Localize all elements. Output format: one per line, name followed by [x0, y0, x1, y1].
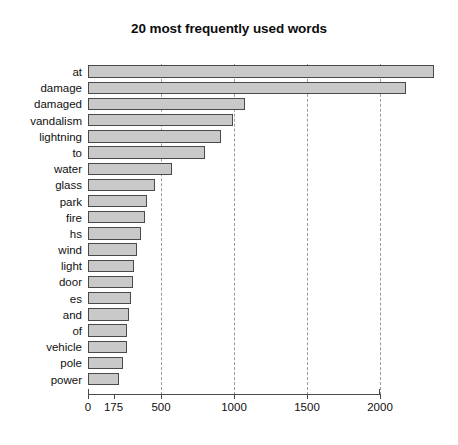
y-label-lightning: lightning [0, 129, 82, 145]
bar-row [88, 372, 453, 388]
y-label-power: power [0, 372, 82, 388]
chart-title: 20 most frequently used words [0, 21, 458, 36]
x-tick-500 [161, 394, 162, 399]
bar-glass [88, 179, 155, 191]
bar-chart: 20 most frequently used words atdamageda… [0, 0, 458, 445]
bar-lightning [88, 130, 221, 142]
bar-to [88, 146, 205, 158]
x-tick-label-1500: 1500 [294, 401, 320, 413]
bar-damaged [88, 98, 245, 110]
bar-row [88, 80, 453, 96]
bar-row [88, 210, 453, 226]
bar-row [88, 177, 453, 193]
x-tick-label-500: 500 [151, 401, 170, 413]
y-label-vandalism: vandalism [0, 113, 82, 129]
bar-row [88, 307, 453, 323]
bar-row [88, 355, 453, 371]
y-label-water: water [0, 161, 82, 177]
y-label-of: of [0, 323, 82, 339]
y-label-door: door [0, 274, 82, 290]
y-axis-category-labels: atdamagedamagedvandalismlightningtowater… [0, 64, 82, 395]
x-tick-1000 [234, 394, 235, 399]
y-label-at: at [0, 64, 82, 80]
bar-at [88, 65, 434, 77]
bar-row [88, 323, 453, 339]
bar-power [88, 373, 119, 385]
bar-fire [88, 211, 145, 223]
x-tick-0 [88, 394, 89, 399]
bar-series [88, 64, 453, 388]
bar-row [88, 194, 453, 210]
bar-and [88, 308, 129, 320]
y-label-vehicle: vehicle [0, 339, 82, 355]
bar-row [88, 258, 453, 274]
x-tick-2000 [380, 394, 381, 399]
x-tick-label-0: 0 [85, 401, 91, 413]
bar-door [88, 276, 133, 288]
y-label-to: to [0, 145, 82, 161]
x-tick-175 [114, 394, 115, 399]
y-label-and: and [0, 307, 82, 323]
x-tick-label-2000: 2000 [367, 401, 393, 413]
bar-es [88, 292, 131, 304]
bar-row [88, 274, 453, 290]
x-tick-label-175: 175 [104, 401, 123, 413]
bar-row [88, 64, 453, 80]
y-label-glass: glass [0, 177, 82, 193]
y-label-es: es [0, 291, 82, 307]
bar-water [88, 163, 172, 175]
bar-row [88, 242, 453, 258]
bar-hs [88, 227, 141, 239]
bar-row [88, 113, 453, 129]
bar-row [88, 129, 453, 145]
y-label-fire: fire [0, 210, 82, 226]
bar-row [88, 161, 453, 177]
bar-row [88, 226, 453, 242]
bar-vandalism [88, 114, 233, 126]
bar-row [88, 339, 453, 355]
bar-vehicle [88, 341, 127, 353]
y-label-light: light [0, 258, 82, 274]
x-tick-label-1000: 1000 [221, 401, 247, 413]
y-label-park: park [0, 194, 82, 210]
bar-wind [88, 243, 137, 255]
y-label-wind: wind [0, 242, 82, 258]
plot-area [88, 64, 453, 395]
bar-of [88, 324, 127, 336]
y-label-hs: hs [0, 226, 82, 242]
bar-light [88, 260, 134, 272]
bar-damage [88, 82, 406, 94]
bar-row [88, 291, 453, 307]
bar-row [88, 96, 453, 112]
bar-row [88, 145, 453, 161]
y-label-damage: damage [0, 80, 82, 96]
y-label-damaged: damaged [0, 96, 82, 112]
bar-pole [88, 357, 123, 369]
x-tick-1500 [307, 394, 308, 399]
y-label-pole: pole [0, 355, 82, 371]
bar-park [88, 195, 147, 207]
